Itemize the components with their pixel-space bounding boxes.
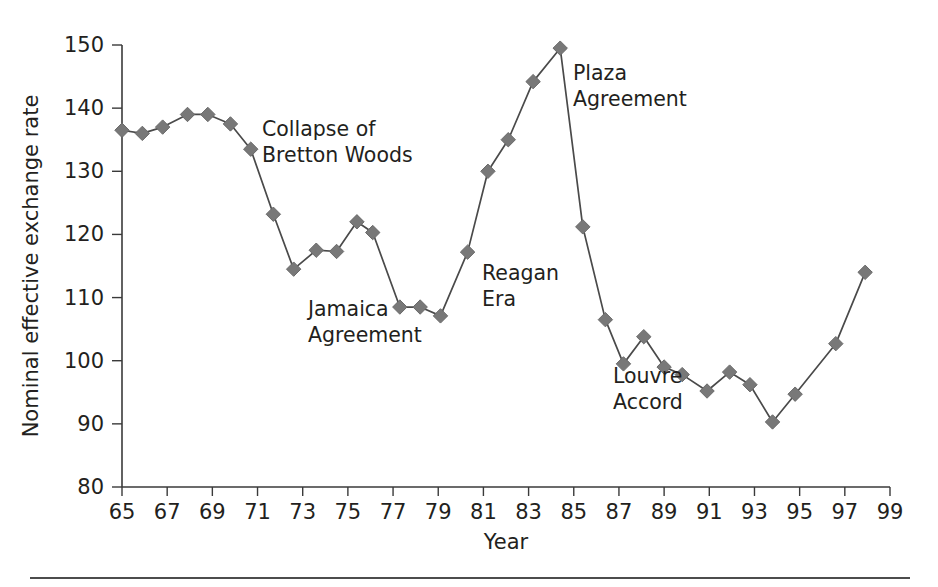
x-tick-label: 95 — [786, 500, 813, 524]
annotation-collapse-bretton-woods: Bretton Woods — [262, 143, 413, 167]
y-tick-label: 140 — [64, 96, 104, 120]
x-tick-label: 83 — [515, 500, 542, 524]
data-point-marker — [743, 378, 757, 392]
data-point-marker — [501, 133, 515, 147]
x-tick-label: 87 — [606, 500, 633, 524]
x-tick-label: 67 — [154, 500, 181, 524]
data-point-marker — [180, 107, 194, 121]
x-tick-label: 89 — [651, 500, 678, 524]
x-tick-label: 69 — [199, 500, 226, 524]
x-tick-label: 85 — [560, 500, 587, 524]
x-tick-label: 77 — [380, 500, 407, 524]
x-tick-label: 97 — [831, 500, 858, 524]
y-tick-label: 90 — [77, 412, 104, 436]
exchange-rate-line-chart: 8090100110120130140150656769717375777981… — [0, 0, 938, 587]
x-tick-label: 65 — [109, 500, 136, 524]
y-tick-label: 130 — [64, 159, 104, 183]
y-tick-label: 80 — [77, 475, 104, 499]
y-tick-label: 120 — [64, 222, 104, 246]
data-point-marker — [433, 309, 447, 323]
chart-figure: 8090100110120130140150656769717375777981… — [0, 0, 938, 587]
series-markers — [115, 41, 873, 429]
data-point-marker — [460, 245, 474, 259]
data-point-marker — [201, 107, 215, 121]
annotation-plaza-agreement: Agreement — [573, 87, 687, 111]
data-point-marker — [637, 330, 651, 344]
data-point-marker — [576, 220, 590, 234]
data-point-marker — [413, 300, 427, 314]
annotation-reagan-era: Era — [482, 287, 516, 311]
x-tick-label: 73 — [289, 500, 316, 524]
data-point-marker — [481, 164, 495, 178]
y-axis-title: Nominal effective exchange rate — [19, 95, 43, 438]
data-point-marker — [155, 120, 169, 134]
x-tick-label: 91 — [696, 500, 723, 524]
series-line-nominal-rate — [122, 48, 865, 422]
data-point-marker — [366, 225, 380, 239]
annotation-collapse-bretton-woods: Collapse of — [262, 117, 376, 141]
y-tick-label: 150 — [64, 33, 104, 57]
x-tick-label: 75 — [335, 500, 362, 524]
annotation-louvre-accord: Louvre — [613, 364, 682, 388]
data-point-marker — [350, 215, 364, 229]
y-tick-label: 100 — [64, 349, 104, 373]
y-axis-ticks: 8090100110120130140150 — [64, 33, 122, 499]
annotation-louvre-accord: Accord — [613, 390, 683, 414]
data-point-marker — [135, 126, 149, 140]
x-axis-ticks: 656769717375777981838587899193959799 — [109, 487, 904, 524]
x-tick-label: 81 — [470, 500, 497, 524]
x-tick-label: 71 — [244, 500, 271, 524]
data-point-marker — [598, 312, 612, 326]
annotation-jamaica-agreement: Agreement — [308, 323, 422, 347]
bottom-divider — [30, 577, 910, 579]
x-tick-label: 93 — [741, 500, 768, 524]
x-tick-label: 99 — [877, 500, 904, 524]
x-axis-title: Year — [483, 530, 529, 554]
annotation-jamaica-agreement: Jamaica — [306, 297, 389, 321]
data-point-marker — [115, 123, 129, 137]
data-point-marker — [858, 265, 872, 279]
data-point-marker — [329, 244, 343, 258]
x-tick-label: 79 — [425, 500, 452, 524]
data-point-marker — [266, 207, 280, 221]
annotation-reagan-era: Reagan — [482, 261, 559, 285]
data-point-marker — [393, 300, 407, 314]
annotation-plaza-agreement: Plaza — [573, 61, 627, 85]
y-tick-label: 110 — [64, 286, 104, 310]
